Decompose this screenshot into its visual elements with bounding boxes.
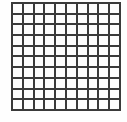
grid-cell xyxy=(89,90,98,99)
grid-cell xyxy=(78,57,87,66)
grid-cell xyxy=(45,57,54,66)
grid-cell xyxy=(99,4,108,13)
grid-cell xyxy=(56,15,65,24)
grid-cell xyxy=(99,36,108,45)
grid-cell xyxy=(78,90,87,99)
grid-cell xyxy=(45,47,54,56)
grid-cell xyxy=(56,79,65,88)
grid-cell xyxy=(110,15,119,24)
grid-cell xyxy=(99,47,108,56)
grid-cell xyxy=(13,100,22,109)
grid-cell xyxy=(67,90,76,99)
grid-cell xyxy=(110,90,119,99)
grid-cell xyxy=(67,36,76,45)
grid-cell xyxy=(13,36,22,45)
grid-cell xyxy=(67,79,76,88)
grid-cell xyxy=(24,15,33,24)
grid-cell xyxy=(56,47,65,56)
grid-cell xyxy=(67,15,76,24)
grid-cell xyxy=(45,36,54,45)
grid-cell xyxy=(89,79,98,88)
grid-cell xyxy=(35,15,44,24)
grid-cell xyxy=(24,47,33,56)
grid-cell xyxy=(56,25,65,34)
grid-cell xyxy=(35,79,44,88)
grid-cell xyxy=(78,15,87,24)
grid-cell xyxy=(110,68,119,77)
grid-cell xyxy=(99,25,108,34)
grid-cell xyxy=(99,57,108,66)
grid-cell xyxy=(78,68,87,77)
grid-cell xyxy=(89,15,98,24)
grid-cell xyxy=(24,90,33,99)
grid-cell xyxy=(67,57,76,66)
grid-cell xyxy=(13,90,22,99)
grid-cell xyxy=(99,100,108,109)
grid-cell xyxy=(110,25,119,34)
grid-cell xyxy=(35,57,44,66)
grid-cell xyxy=(67,25,76,34)
grid-cell xyxy=(89,25,98,34)
grid-cell xyxy=(45,15,54,24)
grid-cell xyxy=(67,68,76,77)
grid-cell xyxy=(35,100,44,109)
grid-cell xyxy=(89,36,98,45)
square-grid xyxy=(11,2,121,111)
grid-cell xyxy=(99,79,108,88)
grid-cell xyxy=(78,100,87,109)
grid-cell xyxy=(56,4,65,13)
grid-cell xyxy=(13,15,22,24)
grid-cell xyxy=(24,57,33,66)
grid-cell xyxy=(78,36,87,45)
grid-cell xyxy=(13,47,22,56)
grid-cell xyxy=(45,79,54,88)
grid-cell xyxy=(78,25,87,34)
grid-cell xyxy=(56,100,65,109)
grid-cell xyxy=(56,57,65,66)
grid-cell xyxy=(56,90,65,99)
grid-cell xyxy=(89,100,98,109)
grid-cell xyxy=(110,57,119,66)
grid-cell xyxy=(78,47,87,56)
grid-cell xyxy=(24,36,33,45)
grid-cell xyxy=(24,4,33,13)
grid-cell xyxy=(78,79,87,88)
grid-cell xyxy=(56,68,65,77)
grid-cell xyxy=(99,15,108,24)
grid-cell xyxy=(24,100,33,109)
grid-cell xyxy=(45,25,54,34)
grid-cell xyxy=(110,100,119,109)
grid-cell xyxy=(24,25,33,34)
grid-cell xyxy=(99,90,108,99)
grid-cell xyxy=(13,79,22,88)
grid-cell xyxy=(89,57,98,66)
grid-cell xyxy=(89,68,98,77)
grid-cell xyxy=(35,47,44,56)
grid-cell xyxy=(35,90,44,99)
grid-cell xyxy=(45,90,54,99)
grid-cell xyxy=(35,25,44,34)
grid-cell xyxy=(13,57,22,66)
grid-cell xyxy=(99,68,108,77)
grid-cell xyxy=(89,4,98,13)
grid-cell xyxy=(45,100,54,109)
grid-cell xyxy=(110,79,119,88)
grid-cell xyxy=(110,47,119,56)
grid-cell xyxy=(110,36,119,45)
grid-cell xyxy=(56,36,65,45)
grid-cell xyxy=(35,36,44,45)
grid-cell xyxy=(35,68,44,77)
grid-cell xyxy=(24,68,33,77)
grid-cell xyxy=(89,47,98,56)
grid-cell xyxy=(67,4,76,13)
grid-cell xyxy=(13,4,22,13)
grid-cell xyxy=(45,4,54,13)
grid-cell xyxy=(13,68,22,77)
grid-cell xyxy=(78,4,87,13)
grid-cell xyxy=(24,79,33,88)
grid-cell xyxy=(13,25,22,34)
grid-cell xyxy=(35,4,44,13)
grid-cell xyxy=(67,100,76,109)
grid-cell xyxy=(45,68,54,77)
grid-cell xyxy=(110,4,119,13)
